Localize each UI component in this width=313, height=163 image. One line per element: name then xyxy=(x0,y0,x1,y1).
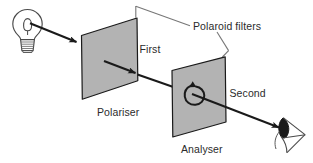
observer-eye-icon xyxy=(275,118,305,153)
label-analyser: Analyser xyxy=(181,143,223,155)
label-polaroid-filters: Polaroid filters xyxy=(193,20,261,32)
label-first: First xyxy=(140,43,161,55)
polariser-panel xyxy=(82,18,138,99)
polaroid-filters-figure: Polaroid filters First Second Polariser … xyxy=(0,0,313,163)
light-bulb-icon xyxy=(13,10,42,53)
label-second: Second xyxy=(230,87,266,99)
label-polariser: Polariser xyxy=(97,106,140,118)
